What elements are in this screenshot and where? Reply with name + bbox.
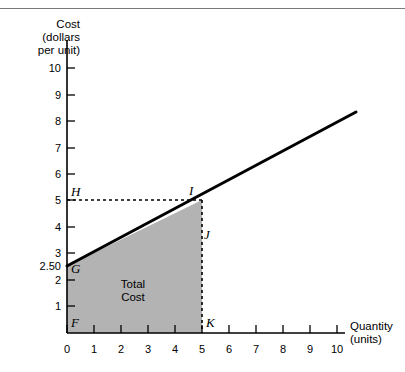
x-tick-label-7: 7: [244, 344, 268, 355]
y-tick-label-8: 8: [28, 116, 61, 127]
y-tick-label-2point50: 2.50: [18, 261, 61, 272]
average-total-cost-line: [67, 112, 356, 266]
point-label-I: I: [189, 184, 193, 197]
x-tick-label-10: 10: [325, 344, 349, 355]
total-cost-region-label-line2: Cost: [105, 291, 161, 304]
y-axis-title-line2: (dollars: [6, 31, 80, 44]
x-tick-label-9: 9: [298, 344, 322, 355]
x-tick-label-1: 1: [82, 344, 106, 355]
y-tick-label-10: 10: [28, 63, 61, 74]
y-axis-title-line1: Cost: [6, 18, 80, 31]
point-label-J: J: [204, 228, 210, 241]
x-tick-label-8: 8: [271, 344, 295, 355]
x-tick-label-3: 3: [136, 344, 160, 355]
total-cost-shaded-region: [67, 200, 202, 333]
y-tick-label-5: 5: [28, 195, 61, 206]
y-axis-title: Cost (dollars per unit): [6, 18, 80, 57]
point-label-F: F: [71, 316, 79, 329]
point-label-K: K: [206, 316, 215, 329]
x-tick-label-0: 0: [55, 344, 79, 355]
y-axis-title-line3: per unit): [6, 44, 80, 57]
y-tick-label-1: 1: [28, 301, 61, 312]
y-tick-label-4: 4: [28, 222, 61, 233]
y-tick-label-7: 7: [28, 143, 61, 154]
x-tick-label-5: 5: [190, 344, 214, 355]
x-axis-title-line2: (units): [350, 333, 405, 346]
y-tick-label-6: 6: [28, 169, 61, 180]
x-tick-label-4: 4: [163, 344, 187, 355]
x-axis-title-line1: Quantity: [350, 320, 405, 333]
total-cost-region-label-line1: Total: [105, 278, 161, 291]
x-axis-title: Quantity (units): [350, 320, 405, 346]
total-cost-region-label: Total Cost: [105, 278, 161, 304]
total-cost-chart: Cost (dollars per unit) Quantity (units)…: [0, 0, 405, 372]
x-tick-label-2: 2: [109, 344, 133, 355]
point-label-H: H: [71, 185, 80, 198]
y-tick-label-9: 9: [28, 90, 61, 101]
y-tick-label-3: 3: [28, 248, 61, 259]
y-tick-label-2: 2: [28, 275, 61, 286]
x-tick-label-6: 6: [217, 344, 241, 355]
point-label-G: G: [71, 262, 80, 275]
